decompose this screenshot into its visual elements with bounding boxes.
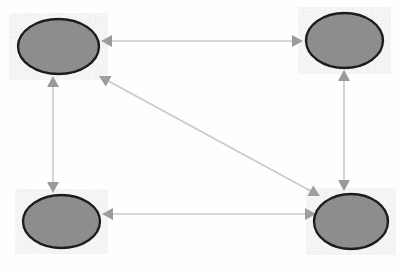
edge-top-horizontal-arrowhead-start [101, 35, 112, 47]
edge-top-horizontal-arrowhead-end [292, 35, 303, 47]
edge-right-vertical-arrowhead-start [338, 70, 350, 81]
top-left-node[interactable] [18, 19, 99, 74]
top-right-node[interactable] [306, 13, 383, 68]
bottom-left-node-shape [23, 195, 100, 248]
edge-diagonal-line [106, 80, 313, 192]
edge-left-vertical[interactable] [47, 76, 59, 193]
edge-bottom-horizontal[interactable] [102, 208, 316, 220]
top-left-node-shape [18, 19, 99, 74]
bottom-left-node[interactable] [23, 195, 100, 248]
edge-right-vertical-arrowhead-end [338, 180, 350, 191]
diagram-canvas [0, 0, 404, 270]
edge-bottom-horizontal-arrowhead-end [102, 208, 113, 220]
bottom-right-node[interactable] [314, 194, 388, 249]
bottom-right-node-shape [314, 194, 388, 249]
edge-right-vertical[interactable] [338, 70, 350, 191]
top-right-node-shape [306, 13, 383, 68]
edge-left-vertical-arrowhead-end [47, 182, 59, 193]
edge-top-horizontal[interactable] [101, 35, 303, 47]
edge-diagonal[interactable] [99, 76, 320, 196]
graph-svg [0, 0, 404, 270]
edge-left-vertical-arrowhead-start [47, 76, 59, 87]
